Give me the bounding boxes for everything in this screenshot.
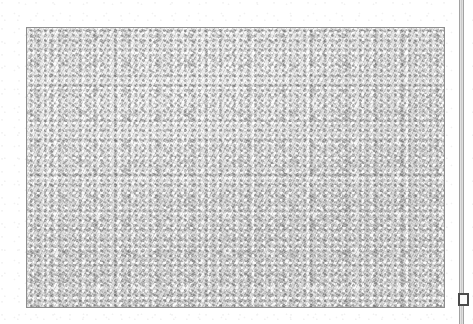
noise-coarse-layer xyxy=(26,27,445,308)
noise-image-block xyxy=(26,27,445,308)
noise-fine-layer xyxy=(26,27,445,308)
corner-marker-box xyxy=(458,293,469,306)
noise-dither-layer xyxy=(26,27,445,308)
scanned-page xyxy=(0,0,473,324)
noise-medium-layer xyxy=(26,27,445,308)
noise-cloud-layer xyxy=(26,27,445,308)
image-block-caption xyxy=(27,28,28,29)
corner-marker-label xyxy=(460,295,461,296)
right-margin-rule-outer xyxy=(463,0,464,324)
right-margin-rule-inner xyxy=(459,0,460,324)
